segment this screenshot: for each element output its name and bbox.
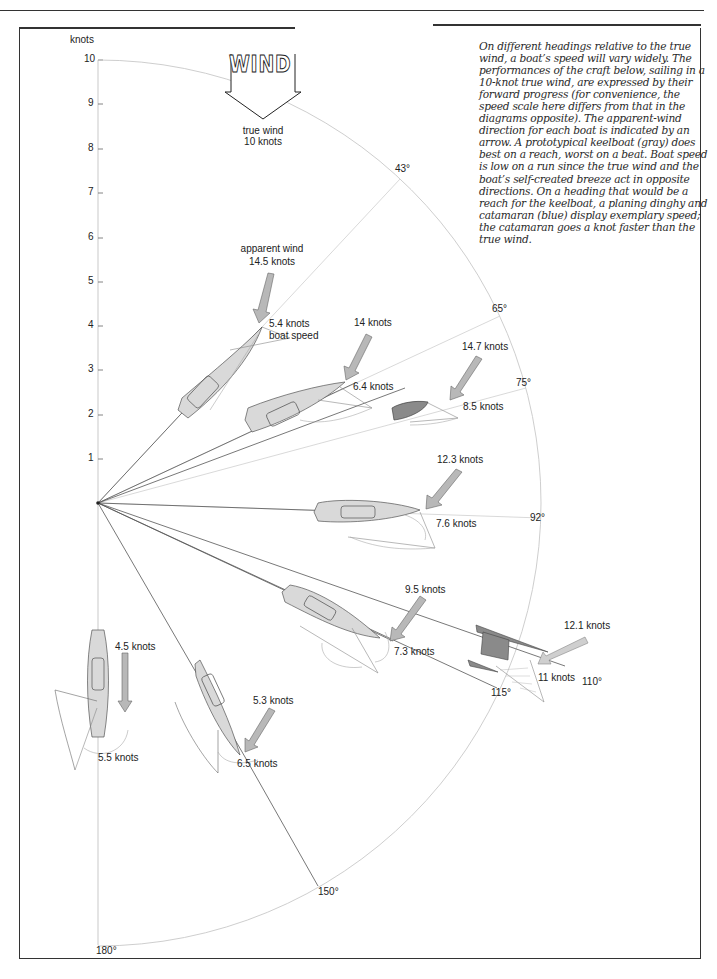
run-boat-speed: 5.5 knots <box>98 752 139 763</box>
angle-65: 65° <box>492 303 507 314</box>
catamaran-apparent-wind: 12.1 knots <box>564 620 610 631</box>
beat-boat-speed-note: boat speed <box>269 330 319 341</box>
apparent-wind-arrow-180-icon <box>118 653 132 712</box>
apparent-wind-arrow-43-icon <box>253 273 274 323</box>
angle-115: 115° <box>491 687 511 698</box>
apparent-wind-arrow-110-icon <box>538 637 588 664</box>
angle-150: 150° <box>318 886 339 897</box>
true-wind-line1: true wind <box>238 125 288 136</box>
catamaran-boat-speed: 11 knots <box>538 672 575 683</box>
true-wind-line2: 10 knots <box>238 136 288 147</box>
axis-tick-10: 10 <box>84 53 95 64</box>
angle-92: 92° <box>530 512 545 523</box>
axis-ticks <box>98 60 103 459</box>
beat-boat-speed: 5.4 knots <box>269 318 310 329</box>
broad-reach-apparent-wind: 9.5 knots <box>405 584 446 595</box>
axis-tick-6: 6 <box>88 231 94 242</box>
keelboat-92-icon <box>314 500 435 549</box>
angle-110: 110° <box>582 676 602 687</box>
close-reach-boat-speed: 6.4 knots <box>353 381 394 392</box>
axis-tick-2: 2 <box>88 408 94 419</box>
axis-tick-3: 3 <box>88 363 94 374</box>
axis-unit-label: knots <box>70 34 94 45</box>
dinghy-boat-speed: 8.5 knots <box>463 401 504 412</box>
apparent-wind-arrow-75-icon <box>450 356 482 400</box>
quarter-apparent-wind: 5.3 knots <box>253 695 294 706</box>
apparent-wind-arrow-115-icon <box>390 596 426 641</box>
apparent-wind-arrow-65-icon <box>344 334 372 380</box>
axis-tick-1: 1 <box>88 452 94 463</box>
keelboat-150-icon <box>175 660 258 773</box>
axis-tick-8: 8 <box>88 142 94 153</box>
apparent-wind-arrow-92-icon <box>426 469 462 509</box>
axis-tick-5: 5 <box>88 275 94 286</box>
broad-reach-boat-speed: 7.3 knots <box>394 646 435 657</box>
angle-43: 43° <box>395 163 410 174</box>
wind-title: WIND <box>229 51 292 77</box>
quarter-boat-speed: 6.5 knots <box>237 758 278 769</box>
axis-tick-4: 4 <box>88 319 94 330</box>
keelboat-115-icon <box>282 585 389 673</box>
close-reach-apparent-wind: 14 knots <box>354 317 392 328</box>
dinghy-apparent-wind: 14.7 knots <box>462 341 508 352</box>
angle-180: 180° <box>96 945 117 956</box>
apparent-wind-heading-label: apparent wind <box>232 243 312 254</box>
origin-point <box>96 501 100 505</box>
run-apparent-wind: 4.5 knots <box>115 641 156 652</box>
axis-tick-9: 9 <box>88 97 94 108</box>
beat-apparent-wind: 14.5 knots <box>242 256 302 267</box>
axis-tick-7: 7 <box>88 186 94 197</box>
caption-text: On different headings relative to the tr… <box>479 40 709 245</box>
angle-75: 75° <box>516 377 531 388</box>
beam-reach-apparent-wind: 12.3 knots <box>437 454 483 465</box>
beam-reach-boat-speed: 7.6 knots <box>436 518 477 529</box>
true-wind-label: true wind 10 knots <box>238 125 288 147</box>
apparent-wind-arrow-150-icon <box>245 708 275 752</box>
